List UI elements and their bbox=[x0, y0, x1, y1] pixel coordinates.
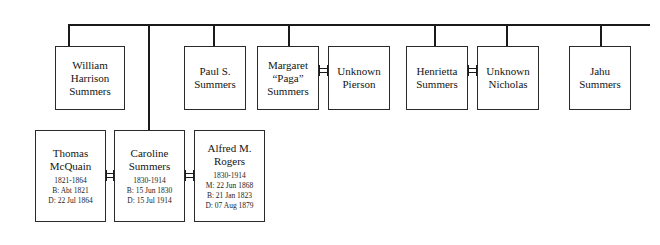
name-line: Henrietta bbox=[416, 65, 458, 78]
name-line: Unknown bbox=[486, 65, 529, 78]
person-box-unknown-nicholas[interactable]: Unknown Nicholas bbox=[477, 46, 539, 110]
connector-bus-to-jahu-summers bbox=[600, 24, 602, 46]
detail-birth: B: 21 Jan 1823 bbox=[205, 191, 253, 201]
detail-lifespan: 1821-1864 bbox=[48, 176, 92, 186]
name-line: Margaret bbox=[267, 59, 309, 72]
name-line: Nicholas bbox=[486, 78, 529, 91]
connector-bus-to-paul-s-summers bbox=[213, 24, 215, 46]
person-box-unknown-pierson[interactable]: Unknown Pierson bbox=[328, 46, 390, 110]
name-line: Summers bbox=[129, 160, 171, 174]
person-box-margaret-paga-summers[interactable]: Margaret “Paga” Summers bbox=[257, 46, 319, 110]
name-line: Summers bbox=[579, 78, 621, 91]
family-tree-chart: William Harrison Summers Paul S. Summers… bbox=[0, 0, 660, 245]
person-details-thomas-mcquain: 1821-1864 B: Abt 1821 D: 22 Jul 1864 bbox=[48, 176, 92, 206]
name-line: Thomas bbox=[50, 147, 92, 161]
marriage-cap-left bbox=[185, 170, 186, 181]
name-line: Summers bbox=[69, 85, 111, 98]
person-name-paul-s-summers: Paul S. Summers bbox=[194, 65, 236, 91]
name-line: “Paga” bbox=[267, 72, 309, 85]
name-line: Paul S. bbox=[194, 65, 236, 78]
person-details-caroline-summers: 1830-1914 B: 15 Jun 1830 D: 15 Jul 1914 bbox=[127, 176, 173, 206]
detail-lifespan: 1830-1914 bbox=[127, 176, 173, 186]
name-line: McQuain bbox=[50, 160, 92, 174]
connector-bus-to-margaret-paga-summers bbox=[288, 24, 290, 46]
marriage-cap-left bbox=[319, 65, 320, 76]
connector-bus-to-henrietta-summers bbox=[434, 24, 436, 46]
name-line: William bbox=[69, 59, 111, 72]
marriage-connector-henrietta-nicholas bbox=[468, 68, 477, 73]
person-name-margaret-paga-summers: Margaret “Paga” Summers bbox=[267, 59, 309, 98]
marriage-connector-thomas-caroline bbox=[106, 173, 114, 178]
person-name-jahu-summers: Jahu Summers bbox=[579, 65, 621, 91]
marriage-cap-left bbox=[468, 65, 469, 76]
person-box-thomas-mcquain[interactable]: Thomas McQuain 1821-1864 B: Abt 1821 D: … bbox=[35, 130, 106, 222]
sibling-bus-line bbox=[68, 24, 650, 26]
marriage-cap-left bbox=[106, 170, 107, 181]
person-box-henrietta-summers[interactable]: Henrietta Summers bbox=[406, 46, 468, 110]
person-name-alfred-m-rogers: Alfred M. Rogers bbox=[208, 142, 252, 169]
detail-death: D: 15 Jul 1914 bbox=[127, 196, 173, 206]
name-line: Summers bbox=[194, 78, 236, 91]
person-box-alfred-m-rogers[interactable]: Alfred M. Rogers 1830-1914 M: 22 Jun 186… bbox=[194, 130, 265, 222]
detail-death: D: 07 Aug 1879 bbox=[205, 201, 253, 211]
person-name-henrietta-summers: Henrietta Summers bbox=[416, 65, 458, 91]
connector-bus-to-caroline-summers bbox=[148, 24, 150, 130]
person-name-unknown-pierson: Unknown Pierson bbox=[337, 65, 380, 91]
name-line: Caroline bbox=[129, 147, 171, 161]
name-line: Summers bbox=[416, 78, 458, 91]
person-box-jahu-summers[interactable]: Jahu Summers bbox=[569, 46, 631, 110]
name-line: Jahu bbox=[579, 65, 621, 78]
connector-bus-to-unknown-nicholas bbox=[506, 24, 508, 46]
connector-bus-to-william-harrison-summers bbox=[68, 24, 70, 46]
name-line: Alfred M. bbox=[208, 142, 252, 156]
marriage-connector-margaret-pierson bbox=[319, 68, 328, 73]
name-line: Summers bbox=[267, 85, 309, 98]
detail-lifespan: 1830-1914 bbox=[205, 171, 253, 181]
detail-marriage: M: 22 Jun 1868 bbox=[205, 181, 253, 191]
person-name-unknown-nicholas: Unknown Nicholas bbox=[486, 65, 529, 91]
name-line: Unknown bbox=[337, 65, 380, 78]
person-details-alfred-m-rogers: 1830-1914 M: 22 Jun 1868 B: 21 Jan 1823 … bbox=[205, 171, 253, 211]
person-name-william-harrison-summers: William Harrison Summers bbox=[69, 59, 111, 98]
name-line: Harrison bbox=[69, 72, 111, 85]
person-box-caroline-summers[interactable]: Caroline Summers 1830-1914 B: 15 Jun 183… bbox=[114, 130, 185, 222]
detail-birth: B: 15 Jun 1830 bbox=[127, 186, 173, 196]
person-name-thomas-mcquain: Thomas McQuain bbox=[50, 147, 92, 174]
person-box-william-harrison-summers[interactable]: William Harrison Summers bbox=[55, 46, 125, 110]
name-line: Pierson bbox=[337, 78, 380, 91]
marriage-connector-caroline-alfred bbox=[185, 173, 194, 178]
person-box-paul-s-summers[interactable]: Paul S. Summers bbox=[184, 46, 246, 110]
detail-birth: B: Abt 1821 bbox=[48, 186, 92, 196]
detail-death: D: 22 Jul 1864 bbox=[48, 196, 92, 206]
person-name-caroline-summers: Caroline Summers bbox=[129, 147, 171, 174]
name-line: Rogers bbox=[208, 155, 252, 169]
